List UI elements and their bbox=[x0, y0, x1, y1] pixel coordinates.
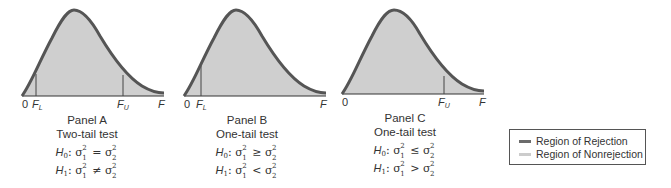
alternative-hypothesis: H1: σ21 ≠ σ22 bbox=[2, 163, 172, 181]
panel-c: 0 FU F Panel C One-tail test H0: σ21 ≤ σ… bbox=[338, 0, 508, 188]
null-hypothesis: H0: σ21 = σ22 bbox=[2, 145, 172, 163]
legend-label: Region of Nonrejection bbox=[536, 148, 643, 160]
null-hypothesis: H0: σ21 ≤ σ22 bbox=[320, 143, 490, 161]
axis-fu-label: FU bbox=[438, 97, 450, 111]
legend-label: Region of Rejection bbox=[536, 135, 628, 147]
f-distribution-curve-c bbox=[338, 0, 508, 110]
axis-origin-label: 0 bbox=[184, 99, 190, 110]
nonrejection-swatch-icon bbox=[519, 153, 531, 156]
panel-subtitle: One-tail test bbox=[320, 125, 490, 139]
legend-item-nonrejection: Region of Nonrejection bbox=[519, 148, 643, 160]
axis-fl-label: FL bbox=[32, 99, 43, 113]
rejection-swatch-icon bbox=[519, 140, 531, 143]
panel-title: Panel C bbox=[320, 111, 490, 125]
axis-f-label: F bbox=[158, 99, 165, 110]
null-hypothesis: H0: σ21 ≥ σ22 bbox=[162, 145, 332, 163]
axis-f-label: F bbox=[479, 97, 486, 108]
axis-origin-label: 0 bbox=[22, 99, 28, 110]
axis-origin-label: 0 bbox=[342, 97, 348, 108]
f-distribution-curve-a bbox=[18, 0, 188, 110]
alternative-hypothesis: H1: σ21 < σ22 bbox=[162, 163, 332, 181]
f-distribution-curve-b bbox=[180, 0, 350, 110]
panel-title: Panel A bbox=[2, 113, 172, 127]
axis-fu-label: FU bbox=[117, 99, 129, 113]
panel-subtitle: One-tail test bbox=[162, 127, 332, 141]
alternative-hypothesis: H1: σ21 > σ22 bbox=[320, 161, 490, 179]
legend: Region of Rejection Region of Nonrejecti… bbox=[509, 129, 646, 165]
axis-f-label: F bbox=[320, 99, 327, 110]
panel-subtitle: Two-tail test bbox=[2, 127, 172, 141]
panel-title: Panel B bbox=[162, 113, 332, 127]
legend-item-rejection: Region of Rejection bbox=[519, 135, 628, 147]
axis-fl-label: FL bbox=[196, 99, 207, 113]
